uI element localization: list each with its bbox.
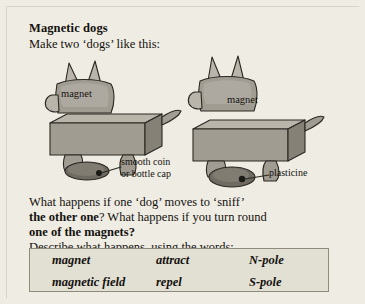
label-magnet-left: magnet <box>61 88 92 99</box>
word-item: S-pole <box>245 275 330 290</box>
magnetic-dogs-illustration: .ol{stroke:#2a2823;stroke-width:1.1;stro… <box>25 51 355 193</box>
label-plasticine: plasticine <box>269 167 307 178</box>
intro-text: Make two ‘dogs’ like this: <box>29 37 160 52</box>
word-item: attract <box>150 253 245 268</box>
label-coin-line2: or bottle cap <box>121 168 171 179</box>
worksheet-inner: Magnetic dogs Make two ‘dogs’ like this:… <box>6 6 359 298</box>
question-block: What happens if one ‘dog’ moves to ‘snif… <box>29 195 349 255</box>
label-coin-line1: smooth coin <box>121 156 170 167</box>
question-line-2: the other one? What happens if you turn … <box>29 210 349 225</box>
word-bank-box: magnet attract N-pole magnetic field rep… <box>29 248 329 292</box>
question-line-2-rest: ? What happens if you turn round <box>99 210 267 224</box>
question-emphasis-2: one of the magnets <box>29 225 129 239</box>
word-item: repel <box>150 275 245 290</box>
word-item: magnetic field <box>30 275 150 290</box>
question-emphasis-3: ? <box>129 225 135 239</box>
question-line-1: What happens if one ‘dog’ moves to ‘snif… <box>29 195 349 210</box>
page-title: Magnetic dogs <box>29 21 108 36</box>
question-emphasis-1: the other one <box>29 210 99 224</box>
word-item: magnet <box>30 253 150 268</box>
worksheet-page: Magnetic dogs Make two ‘dogs’ like this:… <box>0 0 365 304</box>
word-item: N-pole <box>245 253 330 268</box>
word-bank-grid: magnet attract N-pole magnetic field rep… <box>30 249 328 291</box>
label-magnet-right: magnet <box>227 94 258 105</box>
question-line-3: one of the magnets? <box>29 225 349 240</box>
